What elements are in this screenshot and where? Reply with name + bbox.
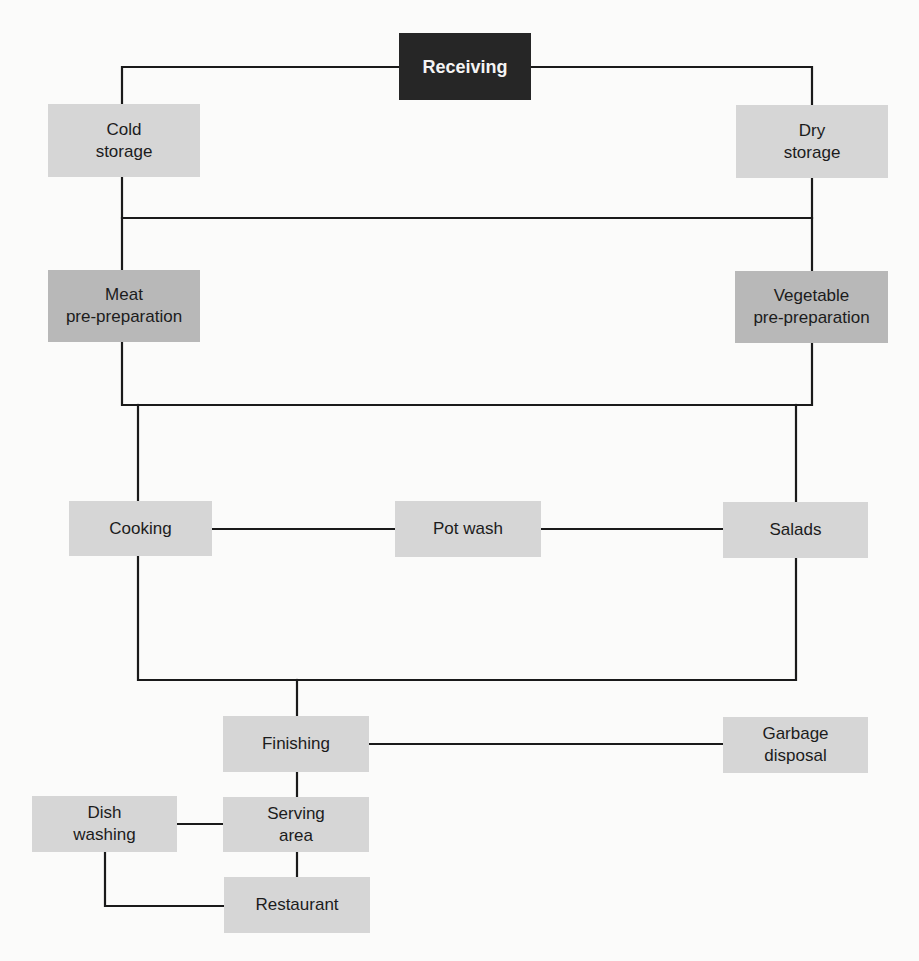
node-label: Cooking (109, 518, 171, 540)
node-vegetable-pre-preparation: Vegetable pre-preparation (735, 271, 888, 343)
node-cold-storage: Cold storage (48, 104, 200, 177)
node-label: Restaurant (255, 894, 338, 916)
node-receiving: Receiving (399, 33, 531, 100)
node-restaurant: Restaurant (224, 877, 370, 933)
edge-receiving-dry-storage (531, 67, 812, 105)
node-label: Salads (770, 519, 822, 541)
node-label: Finishing (262, 733, 330, 755)
node-label: Dish washing (73, 802, 135, 846)
node-serving-area: Serving area (223, 797, 369, 852)
edge-cooking-salads-loop (138, 556, 796, 680)
node-label: Cold storage (96, 119, 153, 163)
kitchen-flow-diagram: Receiving Cold storage Dry storage Meat … (0, 0, 919, 961)
node-pot-wash: Pot wash (395, 501, 541, 557)
node-dry-storage: Dry storage (736, 105, 888, 178)
edge-meat-prep-down (122, 342, 812, 405)
node-finishing: Finishing (223, 716, 369, 772)
node-meat-pre-preparation: Meat pre-preparation (48, 270, 200, 342)
node-label: Receiving (422, 56, 507, 78)
node-label: Serving area (267, 803, 325, 847)
node-salads: Salads (723, 502, 868, 558)
node-cooking: Cooking (69, 501, 212, 556)
edge-receiving-cold-storage (122, 67, 399, 104)
node-label: Vegetable pre-preparation (753, 285, 869, 329)
edge-dish-washing-restaurant (105, 852, 224, 906)
node-label: Meat pre-preparation (66, 284, 182, 328)
node-garbage-disposal: Garbage disposal (723, 717, 868, 773)
node-label: Garbage disposal (762, 723, 828, 767)
node-dish-washing: Dish washing (32, 796, 177, 852)
node-label: Dry storage (784, 120, 841, 164)
node-label: Pot wash (433, 518, 503, 540)
